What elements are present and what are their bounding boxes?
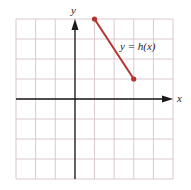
- function-label: y = h(x): [119, 40, 156, 53]
- x-axis-label: x: [176, 92, 182, 104]
- end-point: [131, 76, 136, 81]
- y-axis-arrow-icon: [72, 19, 79, 30]
- x-axis-arrow-icon: [162, 96, 173, 103]
- start-point: [92, 16, 97, 21]
- graph: x y y = h(x): [0, 0, 191, 190]
- y-axis-label: y: [70, 4, 76, 16]
